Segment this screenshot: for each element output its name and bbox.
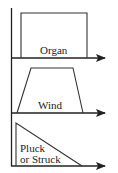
wind-label: Wind [38,99,62,111]
panel-wind: Wind [11,68,105,113]
panel-organ: Organ [11,13,105,58]
organ-label: Organ [40,44,68,56]
envelope-diagram: Organ Wind Pluck or Struck [0,0,118,173]
pluck-label-line2: or Struck [20,153,61,165]
panel-pluck-struck: Pluck or Struck [11,123,105,166]
